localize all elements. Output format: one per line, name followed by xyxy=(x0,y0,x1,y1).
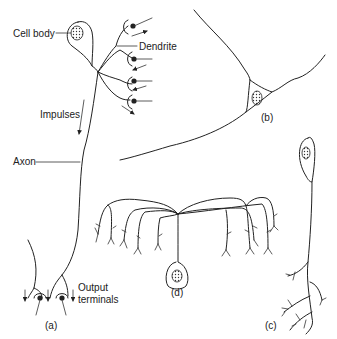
axon xyxy=(62,72,98,275)
synapse-icon xyxy=(122,95,152,114)
panel-label-a: (a) xyxy=(45,320,57,331)
nucleus-icon xyxy=(302,147,310,159)
neuron-c xyxy=(282,137,326,334)
label-impulses: Impulses xyxy=(40,109,80,120)
synapse-icon xyxy=(56,294,68,316)
synapse-icon xyxy=(34,294,46,316)
nucleus-icon xyxy=(172,270,182,282)
label-dendrite: Dendrite xyxy=(139,41,177,52)
panel-label-d: (d) xyxy=(171,287,183,298)
label-output-terminals-1: Output xyxy=(78,282,108,293)
neuron-b xyxy=(120,10,325,160)
nucleus-icon xyxy=(252,91,262,105)
label-cell-body: Cell body xyxy=(13,28,55,39)
panel-label-b: (b) xyxy=(261,112,273,123)
synapse-icon xyxy=(128,52,153,70)
neuron-d xyxy=(95,197,278,289)
panel-label-c: (c) xyxy=(265,320,277,331)
synapse-icon xyxy=(124,18,153,36)
label-output-terminals-2: terminals xyxy=(78,294,119,305)
nucleus-icon xyxy=(71,26,83,40)
neuron-a xyxy=(25,18,152,315)
label-axon: Axon xyxy=(13,156,36,167)
